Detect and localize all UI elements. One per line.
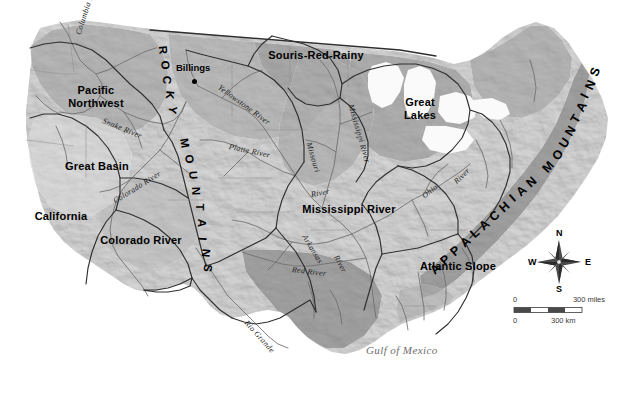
scale-miles-zero: 0 <box>513 295 517 304</box>
range-letter: U <box>187 170 200 179</box>
region-label-line1: Great Basin <box>50 160 144 173</box>
region-label-line1: Souris-Red-Rainy <box>250 49 382 62</box>
region-label-atlantic-slope: Atlantic Slope <box>406 260 510 273</box>
compass-west-label: W <box>528 257 537 267</box>
region-label-line2: Lakes <box>392 109 448 122</box>
range-letter: C <box>161 76 173 85</box>
city-label-billings: Billings <box>176 62 210 73</box>
region-label-line1: Mississippi River <box>288 203 410 216</box>
region-label-great-basin: Great Basin <box>50 160 144 173</box>
range-letter: Y <box>166 105 179 115</box>
compass-north-label: N <box>556 228 563 238</box>
range-letter: O <box>183 154 196 164</box>
scale-km-max: 300 km <box>551 316 576 325</box>
compass-east-label: E <box>585 257 591 267</box>
region-label-line1: Pacific <box>58 84 134 97</box>
range-letter: S <box>201 263 214 272</box>
range-letter: N <box>200 248 213 258</box>
region-label-souris-red-rainy: Souris-Red-Rainy <box>250 49 382 62</box>
scale-km-zero: 0 <box>513 316 517 325</box>
city-dot-billings <box>192 79 197 84</box>
region-label-mississippi-river: Mississippi River <box>288 203 410 216</box>
region-label-pacific-northwest: Pacific Northwest <box>58 84 134 109</box>
region-label-great-lakes: Great Lakes <box>392 96 448 121</box>
region-label-colorado-river: Colorado River <box>82 234 200 247</box>
scale-bar-graphic <box>513 306 605 315</box>
region-label-line2: Northwest <box>58 97 134 110</box>
region-label-california: California <box>18 210 104 223</box>
region-label-line1: Colorado River <box>82 234 200 247</box>
scale-miles-max: 300 miles <box>573 295 605 304</box>
range-letter: M <box>178 137 191 149</box>
compass-south-label: S <box>556 284 562 294</box>
region-label-line1: Atlantic Slope <box>406 260 510 273</box>
region-label-line1: Great <box>392 96 448 109</box>
range-letter: N <box>190 187 202 196</box>
water-label-gulf-of-mexico: Gulf of Mexico <box>366 344 438 356</box>
range-letter: R <box>157 45 170 55</box>
range-letter: K <box>164 90 177 100</box>
scale-bar: 0 300 miles 0 300 km <box>513 295 605 326</box>
map-canvas: Pacific Northwest Great Basin California… <box>0 0 622 409</box>
range-letter: A <box>196 219 208 228</box>
range-letter: O <box>159 60 171 69</box>
range-letter: T <box>194 203 206 210</box>
region-label-line1: California <box>18 210 104 223</box>
